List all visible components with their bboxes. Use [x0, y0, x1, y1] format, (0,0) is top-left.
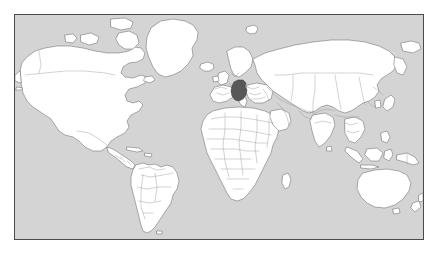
land-hispaniola	[145, 153, 152, 157]
land-british-isles	[217, 71, 229, 85]
map-frame	[14, 14, 424, 240]
land-sri-lanka	[327, 146, 332, 151]
world-map-figure	[0, 0, 439, 256]
land-falkland-islands	[157, 231, 162, 234]
land-tasmania	[393, 208, 400, 214]
world-map-svg[interactable]	[15, 15, 423, 239]
land-korea	[375, 100, 381, 108]
land-ireland	[213, 76, 219, 82]
